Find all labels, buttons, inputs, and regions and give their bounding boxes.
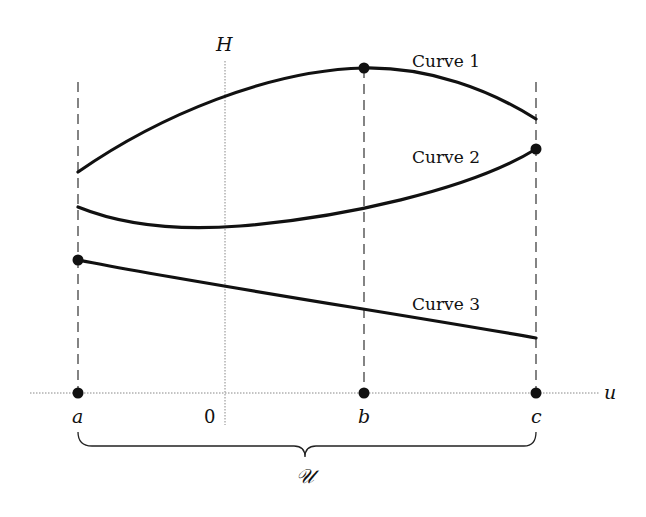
curve-1-max-dot — [359, 63, 370, 74]
diagram-canvas: H u 0 a b c Curve 1 Curve 2 Curve 3 𝒰 — [0, 0, 646, 517]
h-axis-label: H — [215, 33, 233, 55]
curve-3-label: Curve 3 — [412, 294, 480, 314]
curve-2-max-dot — [531, 144, 542, 155]
curve-1-label: Curve 1 — [412, 51, 480, 71]
point-a-label: a — [72, 405, 83, 427]
point-a-dot — [73, 388, 84, 399]
point-b-dot — [359, 388, 370, 399]
curve-2-label: Curve 2 — [412, 147, 480, 167]
brace — [78, 432, 536, 457]
point-c-label: c — [531, 405, 542, 427]
brace-label: 𝒰 — [296, 464, 320, 488]
u-axis-label: u — [604, 381, 616, 403]
point-c-dot — [531, 388, 542, 399]
origin-label: 0 — [204, 406, 215, 427]
point-b-label: b — [358, 405, 370, 427]
curve-3-max-dot — [73, 255, 84, 266]
